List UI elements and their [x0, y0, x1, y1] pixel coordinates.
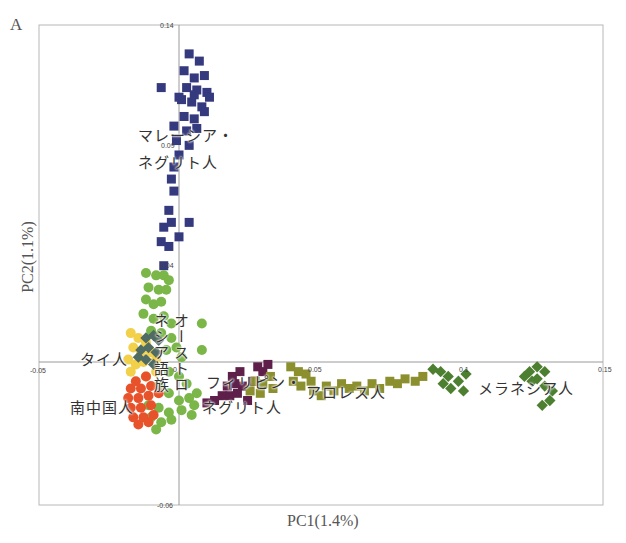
data-point	[141, 268, 151, 278]
pca-scatter-plot: 0.14 0.09 0.04 -0.06 -0.05 0 0.05 0.1 0.…	[0, 0, 626, 543]
data-point	[180, 112, 189, 121]
data-point	[263, 360, 272, 369]
data-point	[156, 297, 166, 307]
y-tick-top: 0.14	[160, 22, 174, 29]
data-point	[177, 405, 187, 415]
x-axis-label: PC1(1.4%)	[287, 512, 359, 530]
data-point	[174, 396, 184, 406]
x-tick-mid1: 0.05	[308, 366, 322, 373]
label-thai: タイ人	[80, 348, 128, 369]
data-point	[418, 372, 427, 381]
y-tick-bottom: -0.06	[157, 502, 173, 509]
data-point	[164, 206, 173, 215]
data-point	[200, 71, 209, 80]
data-point	[197, 345, 207, 355]
label-philippine-negrito-1: フィリピン・	[206, 371, 302, 392]
data-point	[169, 187, 178, 196]
data-point	[175, 232, 184, 241]
data-point	[205, 93, 214, 102]
data-point	[159, 223, 168, 232]
x-tick-left: -0.05	[30, 367, 46, 374]
data-point	[144, 282, 154, 292]
label-austronesian-col2: ネシア語族	[150, 313, 170, 393]
tick-labels: 0.14 0.09 0.04 -0.06 -0.05 0 0.05 0.1 0.…	[30, 22, 612, 509]
data-point	[187, 410, 197, 420]
data-point	[136, 403, 146, 413]
data-point	[138, 309, 148, 319]
data-point	[144, 417, 154, 427]
data-point	[185, 218, 194, 227]
data-point	[185, 49, 194, 58]
data-point	[157, 83, 166, 92]
data-point	[190, 73, 199, 82]
data-point	[133, 420, 143, 430]
y-axis-label: PC2(1.1%)	[19, 207, 37, 307]
data-point	[164, 242, 173, 251]
label-philippine-negrito-2: ネグリト人	[202, 396, 282, 417]
x-tick-right: 0.15	[598, 366, 612, 373]
data-point	[166, 415, 176, 425]
data-point	[180, 66, 189, 75]
data-point	[136, 383, 146, 393]
data-point	[161, 285, 171, 295]
data-point	[458, 385, 469, 396]
data-point	[167, 175, 176, 184]
data-point	[164, 275, 174, 285]
data-point	[189, 400, 199, 410]
data-point	[401, 374, 410, 383]
data-point	[190, 114, 199, 123]
label-south-chinese: 南中国人	[70, 396, 134, 417]
x-tick-mid2: 0.1	[459, 366, 469, 373]
data-point	[190, 90, 199, 99]
plot-frame	[39, 25, 603, 505]
label-malaysia-negrito-2: ネグリト人	[138, 151, 218, 172]
data-point	[126, 383, 136, 393]
label-austronesian-col1: オーストロ	[170, 313, 190, 393]
data-point	[192, 388, 202, 398]
data-point	[200, 107, 209, 116]
label-alorese: アロレス人	[306, 381, 386, 402]
data-point	[175, 93, 184, 102]
data-point	[133, 393, 143, 403]
panel-letter: A	[10, 15, 22, 35]
data-point	[146, 400, 156, 410]
label-melanesian: メラネシア人	[478, 377, 574, 398]
data-point	[151, 424, 161, 434]
label-malaysia-negrito-1: マレーシア・	[138, 124, 234, 145]
data-point	[195, 57, 204, 66]
data-point	[453, 376, 464, 387]
y-tick-mid2: 0.04	[160, 262, 174, 269]
data-point	[197, 318, 207, 328]
